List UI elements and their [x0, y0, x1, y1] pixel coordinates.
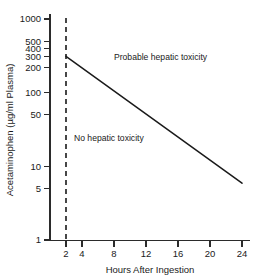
y-tick-label-1000: 1000 [20, 13, 41, 24]
y-tick-label-200: 200 [25, 62, 41, 73]
x-tick-label-2: 2 [63, 248, 68, 259]
region-label-no-toxicity: No hepatic toxicity [74, 133, 144, 143]
y-tick-label-100: 100 [25, 87, 41, 98]
y-tick-marks [44, 19, 50, 240]
treatment-boundary-line [66, 56, 242, 183]
x-axis-title: Hours After Ingestion [106, 264, 195, 275]
x-tick-label-16: 16 [173, 248, 184, 259]
y-tick-label-300: 300 [25, 51, 41, 62]
y-tick-label-1: 1 [36, 234, 41, 245]
x-tick-label-4: 4 [79, 248, 84, 259]
x-tick-marks [66, 241, 242, 248]
y-axis-title: Acetaminophen (µg/ml Plasma) [4, 64, 15, 197]
chart-canvas: 1000 500 400 300 200 100 50 10 5 1 2 4 8 [0, 0, 260, 279]
y-tick-label-5: 5 [36, 183, 41, 194]
x-tick-label-20: 20 [205, 248, 216, 259]
x-tick-labels: 2 4 8 12 16 20 24 [63, 248, 247, 259]
x-tick-label-12: 12 [141, 248, 152, 259]
y-tick-labels: 1000 500 400 300 200 100 50 10 5 1 [20, 13, 41, 245]
acetaminophen-nomogram-chart: 1000 500 400 300 200 100 50 10 5 1 2 4 8 [0, 0, 260, 279]
y-tick-label-10: 10 [30, 161, 41, 172]
x-tick-label-24: 24 [237, 248, 248, 259]
y-tick-label-50: 50 [30, 109, 41, 120]
x-tick-label-8: 8 [111, 248, 116, 259]
region-label-probable-toxicity: Probable hepatic toxicity [114, 52, 208, 62]
